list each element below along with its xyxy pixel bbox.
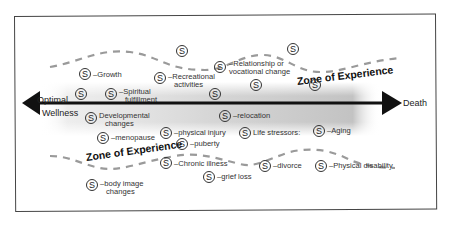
stressor-icon: S: [309, 79, 321, 91]
item-spiritual: –Spiritual fulfillment: [119, 88, 157, 104]
item-divorce: –divorce: [273, 162, 302, 170]
stressor-icon: S: [97, 132, 109, 144]
stressor-icon: S: [239, 127, 251, 139]
stressor-icon: S: [250, 79, 262, 91]
item-chronic-illness: –Chronic illness: [174, 160, 228, 168]
stressor-icon: S: [176, 45, 188, 57]
stressor-icon: S: [287, 43, 299, 55]
stressor-icon: S: [214, 61, 226, 73]
stressor-icon: S: [313, 125, 325, 137]
item-body-image: –body image changes: [100, 180, 143, 196]
item-relationship: –Relationship or vocational change: [229, 60, 290, 76]
stressor-icon: S: [85, 112, 97, 124]
stressor-icon: S: [75, 88, 87, 100]
stressor-icon: S: [219, 110, 231, 122]
stressor-icon: S: [160, 127, 172, 139]
item-relationship-line2: vocational change: [229, 68, 290, 76]
item-recreational-line2: activities: [168, 81, 215, 89]
item-aging-text: –Aging: [327, 126, 351, 135]
item-physical-disability: –Physical disability: [329, 162, 393, 170]
stressor-icon: S: [176, 138, 188, 150]
item-developmental: Developmental changes: [99, 112, 150, 128]
item-life-stressors: Life stressors:: [253, 129, 300, 137]
item-physical-injury: –physical injury: [174, 129, 226, 137]
item-growth: –Growth: [93, 71, 122, 79]
item-physical-injury-text: –physical injury: [174, 128, 226, 137]
item-grief-loss: –grief loss: [217, 173, 252, 181]
item-spiritual-line2: fulfillment: [119, 96, 157, 104]
item-body-image-line2: changes: [100, 188, 143, 196]
item-puberty: –puberty: [190, 140, 220, 148]
item-life-stressors-text: Life stressors:: [253, 128, 300, 137]
stressor-icon: S: [315, 160, 327, 172]
stressor-icon: S: [209, 88, 221, 100]
death-label: Death: [403, 98, 427, 108]
item-aging: –Aging: [327, 127, 351, 135]
item-recreational: –Recreational activities: [168, 73, 215, 89]
item-relocation: –relocation: [233, 112, 270, 120]
stressor-icon: S: [160, 157, 172, 169]
item-grief-loss-text: –grief loss: [217, 172, 252, 181]
optimal-label: Optimal: [37, 95, 68, 105]
stressor-icon: S: [203, 171, 215, 183]
stressor-icon: S: [86, 179, 98, 191]
item-relocation-text: –relocation: [233, 111, 270, 120]
item-physical-disability-text: –Physical disability: [329, 161, 393, 170]
item-chronic-illness-text: –Chronic illness: [174, 159, 228, 168]
item-divorce-text: –divorce: [273, 161, 302, 170]
stressor-icon: S: [154, 72, 166, 84]
item-growth-text: –Growth: [93, 70, 122, 79]
right-arrowhead-icon: [382, 91, 402, 115]
stressor-icon: S: [259, 160, 271, 172]
item-menopause: –menopause: [111, 134, 155, 142]
wellness-label: Wellness: [42, 108, 78, 118]
item-developmental-line2: changes: [99, 120, 150, 128]
item-menopause-text: –menopause: [111, 133, 155, 142]
stressor-icon: S: [79, 68, 91, 80]
item-puberty-text: –puberty: [190, 139, 220, 148]
stressor-icon: S: [105, 88, 117, 100]
